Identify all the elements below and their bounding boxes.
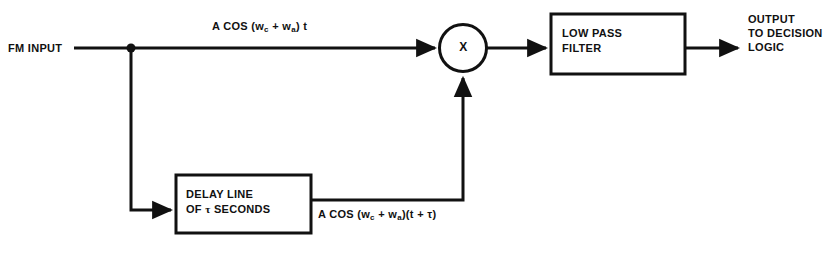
diagram-canvas: FM INPUT A COS (wc + wa) t A COS (wc + w…: [0, 0, 833, 268]
diagram-connections: [0, 0, 833, 268]
wire-branch-to-delay: [131, 48, 171, 210]
low-pass-filter-block-label: LOW PASS FILTER: [562, 26, 622, 56]
top-signal-sub-c: c: [264, 25, 269, 34]
delay-line-label-line2: OF τ SECONDS: [186, 202, 270, 217]
delay-line-suffix: SECONDS: [211, 203, 271, 215]
lpf-label-line1: LOW PASS: [562, 26, 622, 41]
top-signal-mid: + w: [269, 20, 291, 32]
delay-line-block-label: DELAY LINE OF τ SECONDS: [186, 187, 270, 217]
delay-line-prefix: OF: [186, 203, 205, 215]
delayed-signal-mid: + w: [375, 208, 397, 220]
top-signal-label: A COS (wc + wa) t: [212, 20, 307, 34]
top-signal-prefix: A COS (w: [212, 20, 264, 32]
top-signal-suffix: ) t: [296, 20, 307, 32]
delayed-signal-suffix: )(t + τ): [402, 208, 437, 220]
output-label: OUTPUT TO DECISION LOGIC: [748, 12, 823, 54]
delayed-signal-prefix: A COS (w: [318, 208, 370, 220]
lpf-label-line2: FILTER: [562, 41, 622, 56]
delayed-signal-sub-c: c: [370, 213, 375, 222]
output-label-line3: LOGIC: [748, 40, 823, 54]
delayed-signal-label: A COS (wc + wa)(t + τ): [318, 208, 436, 222]
delayed-signal-sub-a: a: [397, 213, 402, 222]
output-label-line2: TO DECISION: [748, 26, 823, 40]
fm-input-label: FM INPUT: [8, 42, 62, 55]
multiplier-symbol-label: X: [440, 41, 487, 54]
wire-delay-to-multiplier: [311, 78, 463, 200]
top-signal-sub-a: a: [291, 25, 296, 34]
delay-line-label-line1: DELAY LINE: [186, 187, 270, 202]
output-label-line1: OUTPUT: [748, 12, 823, 26]
